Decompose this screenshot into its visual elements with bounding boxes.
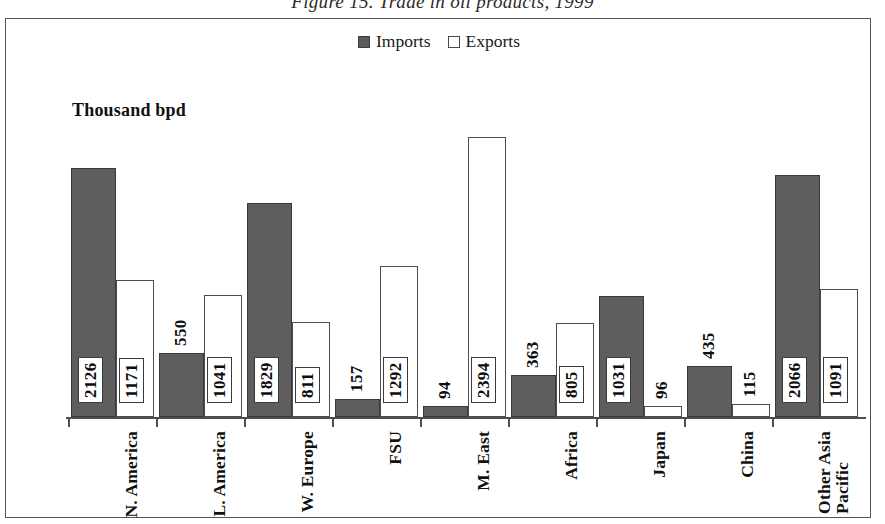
- value-label: 157: [346, 362, 367, 395]
- bar-exports: [644, 406, 682, 417]
- bar-exports: [732, 404, 770, 417]
- category-label: FSU: [386, 431, 404, 465]
- value-label: 1292: [383, 357, 408, 403]
- bar-imports: [423, 406, 468, 417]
- chart-legend: Imports Exports: [6, 31, 872, 52]
- category-label: W. Europe: [298, 431, 316, 513]
- bar-group: 21261171: [71, 109, 154, 417]
- value-label: 1091: [823, 357, 848, 403]
- value-label: 2066: [782, 357, 807, 403]
- value-label: 805: [559, 366, 584, 403]
- category-label: Africa: [562, 431, 580, 480]
- bar-group: 942394: [423, 109, 506, 417]
- figure-caption: Figure 15. Trade in oil products, 1999: [0, 0, 885, 13]
- x-axis-tick: [68, 417, 70, 427]
- x-axis-tick: [244, 417, 246, 427]
- x-axis-baseline: [66, 417, 866, 419]
- bar-group: 363805: [511, 109, 594, 417]
- x-axis-tick: [596, 417, 598, 427]
- value-label: 435: [698, 329, 719, 362]
- x-axis-tick: [156, 417, 158, 427]
- bar-group: 1829811: [247, 109, 330, 417]
- bar-group: 5501041: [159, 109, 242, 417]
- legend-entry-exports: Exports: [448, 31, 520, 52]
- bar-imports: [511, 375, 556, 417]
- value-label: 363: [522, 338, 543, 371]
- value-label: 1171: [119, 358, 144, 403]
- value-label: 1041: [207, 357, 232, 403]
- x-axis-tick: [420, 417, 422, 427]
- value-label: 1031: [606, 357, 631, 403]
- x-axis-category-labels: N. AmericaL. AmericaW. EuropeFSUM. EastA…: [66, 431, 866, 524]
- x-axis-tick: [332, 417, 334, 427]
- legend-label-exports: Exports: [466, 31, 520, 52]
- bar-imports: [687, 366, 732, 417]
- plot-area: 2126117155010411829811157129294239436380…: [66, 109, 866, 419]
- bar-group: 103196: [599, 109, 682, 417]
- category-label: N. America: [122, 431, 140, 518]
- legend-entry-imports: Imports: [358, 31, 430, 52]
- chart-frame: Imports Exports Thousand bpd 21261171550…: [5, 18, 871, 518]
- value-label: 96: [651, 378, 672, 402]
- value-label: 115: [739, 368, 760, 400]
- bar-group: 1571292: [335, 109, 418, 417]
- x-axis-tick: [684, 417, 686, 427]
- bar-group: 435115: [687, 109, 770, 417]
- category-label: Other AsiaPacific: [815, 431, 852, 514]
- category-label: Japan: [650, 431, 668, 478]
- bar-group: 20661091: [775, 109, 858, 417]
- value-label: 94: [434, 378, 455, 402]
- legend-label-imports: Imports: [376, 31, 430, 52]
- value-label: 550: [170, 316, 191, 349]
- legend-swatch-exports-icon: [448, 36, 460, 48]
- value-label: 811: [295, 367, 320, 403]
- bar-imports: [159, 353, 204, 417]
- category-label: L. America: [210, 431, 228, 517]
- legend-swatch-imports-icon: [358, 36, 370, 48]
- x-axis-tick: [772, 417, 774, 427]
- value-label: 2394: [471, 357, 496, 403]
- value-label: 2126: [78, 357, 103, 403]
- bar-imports: [335, 399, 380, 417]
- x-axis-tick: [508, 417, 510, 427]
- category-label: China: [738, 431, 756, 478]
- category-label: M. East: [474, 431, 492, 491]
- value-label: 1829: [254, 357, 279, 403]
